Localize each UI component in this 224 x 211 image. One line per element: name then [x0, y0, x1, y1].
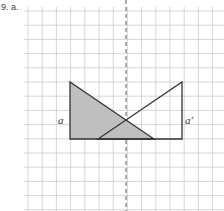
- reflection-diagram: a a′: [0, 0, 224, 211]
- label-a: a: [58, 114, 64, 126]
- grid: [24, 7, 224, 211]
- label-a-prime: a′: [185, 114, 194, 126]
